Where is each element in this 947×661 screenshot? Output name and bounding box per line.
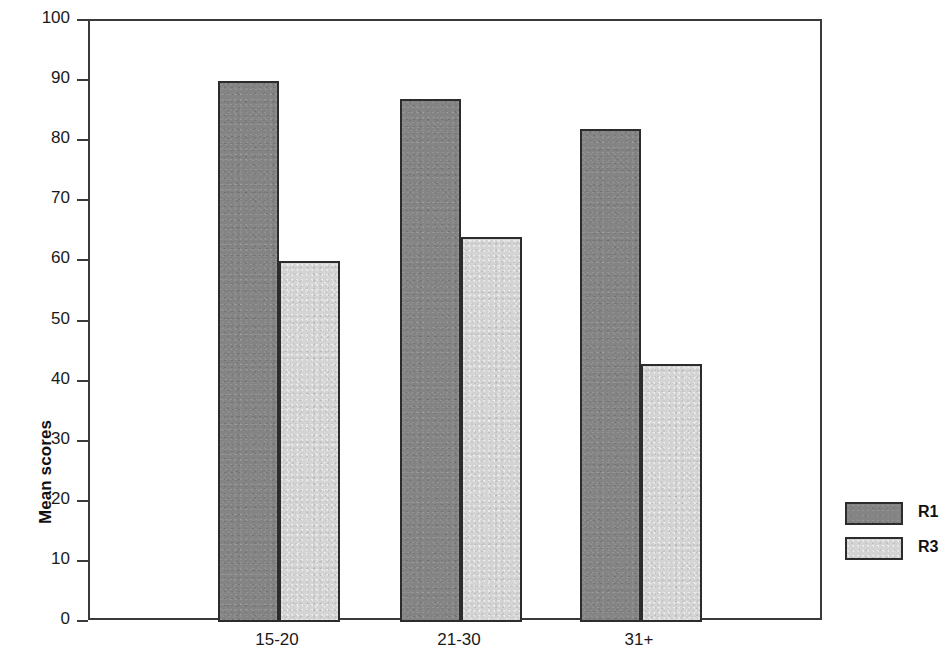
y-tick-mark — [77, 19, 88, 21]
y-tick-label: 100 — [42, 8, 70, 28]
legend-swatch-r3 — [845, 537, 903, 560]
bar-r3-15-20 — [279, 261, 340, 622]
y-tick-mark — [77, 259, 88, 261]
plot-area — [88, 19, 822, 620]
y-tick-mark — [77, 199, 88, 201]
y-tick-mark — [77, 139, 88, 141]
y-tick-label: 60 — [51, 248, 70, 268]
legend-label-r1: R1 — [918, 503, 938, 521]
y-axis-title: Mean scores — [36, 392, 56, 552]
x-axis-label-15-20: 15-20 — [207, 630, 347, 650]
x-axis-label-21-30: 21-30 — [389, 630, 529, 650]
legend-label-r3: R3 — [918, 538, 938, 556]
y-tick-label: 80 — [51, 128, 70, 148]
bar-r1-21-30 — [400, 99, 461, 622]
y-tick-mark — [77, 560, 88, 562]
legend-swatch-r1 — [845, 502, 903, 525]
y-tick-label: 50 — [51, 309, 70, 329]
y-tick-mark — [77, 440, 88, 442]
bar-r3-21-30 — [461, 237, 522, 622]
y-tick-mark — [77, 500, 88, 502]
x-axis-label-31+: 31+ — [569, 630, 709, 650]
y-tick-mark — [77, 320, 88, 322]
y-tick-label: 10 — [51, 549, 70, 569]
y-tick-mark — [77, 620, 88, 622]
y-tick-label: 30 — [51, 429, 70, 449]
bar-chart: Mean scores 1009080706050403020100 15-20… — [0, 0, 947, 661]
bar-r1-31+ — [580, 129, 641, 622]
y-tick-mark — [77, 79, 88, 81]
y-tick-label: 40 — [51, 369, 70, 389]
bar-r1-15-20 — [218, 81, 279, 622]
y-tick-mark — [77, 380, 88, 382]
y-tick-label: 0 — [61, 609, 70, 629]
y-tick-label: 20 — [51, 489, 70, 509]
bar-r3-31+ — [641, 364, 702, 622]
y-tick-label: 70 — [51, 188, 70, 208]
y-tick-label: 90 — [51, 68, 70, 88]
